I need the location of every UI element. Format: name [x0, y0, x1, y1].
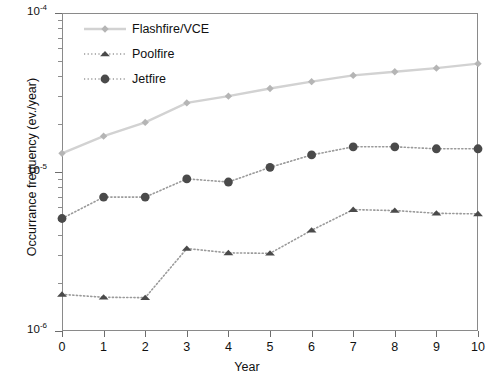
x-major-tick	[436, 331, 437, 337]
legend-label: Jetfire	[132, 72, 166, 86]
x-axis-tick-label: 8	[380, 340, 410, 354]
legend-marker-diamond-icon	[82, 22, 128, 36]
y-axis-tick-label: 10-6	[1, 323, 47, 335]
x-major-tick	[270, 331, 271, 337]
data-point	[391, 68, 398, 75]
series-jetfire	[58, 142, 483, 222]
x-axis-title: Year	[0, 360, 494, 374]
x-axis-tick-label: 4	[213, 340, 243, 354]
x-major-tick	[395, 331, 396, 337]
x-major-tick	[478, 331, 479, 337]
legend-marker-triangle-icon	[82, 47, 128, 61]
data-point	[349, 142, 358, 151]
data-point	[266, 85, 273, 92]
data-point	[183, 99, 190, 106]
legend-item-flashfire-vce[interactable]: Flashfire/VCE	[82, 20, 209, 37]
series-line	[62, 147, 478, 219]
y-tick-mantissa: 10	[27, 323, 40, 335]
data-point	[225, 92, 232, 99]
data-point	[390, 142, 399, 151]
data-point	[308, 78, 315, 85]
y-tick-mantissa: 10	[27, 5, 40, 17]
y-axis-tick-label: 10-4	[1, 5, 47, 17]
chart-figure: Occurrance frequency (ev./year) 10-410-5…	[0, 0, 494, 382]
x-major-tick	[353, 331, 354, 337]
data-point	[266, 163, 275, 172]
legend-marker-circle-icon	[82, 72, 128, 86]
x-major-tick	[228, 331, 229, 337]
legend-item-poolfire[interactable]: Poolfire	[82, 45, 209, 62]
x-axis-tick-label: 6	[297, 340, 327, 354]
y-tick-exponent: -6	[40, 321, 47, 330]
data-point	[433, 64, 440, 71]
x-major-tick	[187, 331, 188, 337]
data-point	[432, 144, 441, 153]
data-point	[223, 250, 233, 255]
data-point	[224, 178, 233, 187]
y-tick-exponent: -4	[40, 3, 47, 12]
data-point	[100, 132, 107, 139]
series-poolfire	[57, 207, 483, 300]
legend: Flashfire/VCEPoolfireJetfire	[82, 20, 209, 87]
x-major-tick	[312, 331, 313, 337]
x-axis-tick-label: 5	[255, 340, 285, 354]
data-point	[182, 174, 191, 183]
x-major-tick	[145, 331, 146, 337]
data-point	[307, 227, 317, 232]
y-tick-exponent: -5	[40, 162, 47, 171]
x-major-tick	[104, 331, 105, 337]
data-point	[141, 193, 150, 202]
x-axis-tick-label: 3	[172, 340, 202, 354]
x-axis-tick-label: 1	[89, 340, 119, 354]
x-major-tick	[62, 331, 63, 337]
data-point	[474, 60, 481, 67]
data-point	[350, 72, 357, 79]
data-point	[99, 294, 109, 299]
legend-label: Flashfire/VCE	[132, 22, 209, 36]
y-major-tick	[55, 13, 62, 14]
x-axis-tick-label: 10	[463, 340, 493, 354]
data-point	[58, 150, 65, 157]
legend-item-jetfire[interactable]: Jetfire	[82, 70, 209, 87]
data-point	[142, 119, 149, 126]
y-axis-tick-label: 10-5	[1, 164, 47, 176]
y-major-tick	[55, 172, 62, 173]
data-point	[58, 214, 67, 223]
x-axis-tick-label: 7	[338, 340, 368, 354]
x-axis-tick-label: 9	[421, 340, 451, 354]
x-axis-tick-label: 2	[130, 340, 160, 354]
data-point	[474, 144, 483, 153]
x-axis-tick-label: 0	[47, 340, 77, 354]
data-point	[307, 151, 316, 160]
data-point	[99, 193, 108, 202]
legend-label: Poolfire	[132, 47, 174, 61]
y-tick-mantissa: 10	[27, 164, 40, 176]
y-major-tick	[55, 331, 62, 332]
